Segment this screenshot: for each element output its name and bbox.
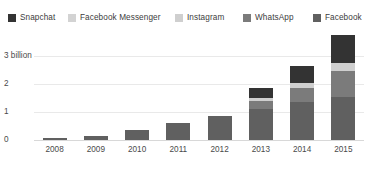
x-axis-tick-label: 2013	[240, 141, 281, 159]
legend-item-facebook[interactable]: Facebook	[313, 14, 362, 22]
x-axis-tick-label: 2009	[75, 141, 116, 159]
legend-swatch-icon	[313, 14, 321, 22]
x-axis-tick-label: 2011	[158, 141, 199, 159]
bar-segment-snapchat[interactable]	[331, 35, 355, 63]
bar-group-2008[interactable]	[34, 34, 75, 140]
bar-segment-facebook[interactable]	[249, 109, 273, 140]
legend-swatch-icon	[243, 14, 251, 22]
bar-segment-whatsapp[interactable]	[290, 88, 314, 102]
x-axis-tick-label: 2014	[282, 141, 323, 159]
stacked-bar[interactable]	[208, 116, 232, 140]
bar-segment-facebook[interactable]	[208, 116, 232, 140]
y-axis-tick-label: 1	[4, 108, 9, 116]
bar-segment-whatsapp[interactable]	[249, 101, 273, 109]
legend-item-instagram[interactable]: Instagram	[175, 14, 224, 22]
legend-swatch-icon	[68, 14, 76, 22]
stacked-bar[interactable]	[125, 130, 149, 140]
chart-legend: SnapchatFacebook MessengerInstagramWhats…	[0, 0, 368, 34]
bar-group-2011[interactable]	[158, 34, 199, 140]
legend-swatch-icon	[8, 14, 16, 22]
legend-item-snapchat[interactable]: Snapchat	[8, 14, 55, 22]
stacked-bar[interactable]	[249, 88, 273, 140]
x-axis: 20082009201020112012201320142015	[34, 141, 364, 159]
x-axis-tick-label: 2008	[34, 141, 75, 159]
x-axis-tick-label: 2015	[323, 141, 364, 159]
bar-segment-instagram[interactable]	[331, 63, 355, 71]
legend-label: Instagram	[187, 14, 224, 22]
y-axis-tick-label: 3 billion	[4, 52, 32, 60]
stacked-bar[interactable]	[166, 123, 190, 140]
bar-group-2010[interactable]	[117, 34, 158, 140]
legend-label: Facebook Messenger	[80, 14, 161, 22]
legend-label: Facebook	[325, 14, 362, 22]
bar-segment-facebook[interactable]	[166, 123, 190, 140]
bar-segment-whatsapp[interactable]	[331, 71, 355, 96]
bar-group-2012[interactable]	[199, 34, 240, 140]
stacked-bar[interactable]	[331, 35, 355, 140]
stacked-bar[interactable]	[43, 138, 67, 140]
bar-segment-snapchat[interactable]	[249, 88, 273, 98]
stacked-bar-chart: SnapchatFacebook MessengerInstagramWhats…	[0, 0, 368, 177]
stacked-bar[interactable]	[84, 136, 108, 140]
chart-footnote	[4, 170, 364, 177]
bar-group-2013[interactable]	[240, 34, 281, 140]
bar-segment-facebook[interactable]	[290, 102, 314, 140]
bar-segment-facebook[interactable]	[84, 136, 108, 140]
x-axis-tick-label: 2010	[117, 141, 158, 159]
legend-label: WhatsApp	[255, 14, 294, 22]
bar-group-2014[interactable]	[282, 34, 323, 140]
legend-label: Snapchat	[20, 14, 55, 22]
bar-segment-facebook[interactable]	[43, 138, 67, 140]
bar-group-2009[interactable]	[75, 34, 116, 140]
legend-swatch-icon	[175, 14, 183, 22]
y-axis-tick-label: 2	[4, 80, 9, 88]
stacked-bar[interactable]	[290, 66, 314, 140]
legend-item-facebook-messenger[interactable]: Facebook Messenger	[68, 14, 161, 22]
x-axis-tick-label: 2012	[199, 141, 240, 159]
bar-segment-facebook[interactable]	[125, 130, 149, 140]
plot-area: 0123 billion 200820092010201120122013201…	[0, 34, 368, 159]
legend-item-whatsapp[interactable]: WhatsApp	[243, 14, 294, 22]
bar-series-container	[34, 34, 364, 140]
bar-segment-facebook[interactable]	[331, 97, 355, 140]
bar-group-2015[interactable]	[323, 34, 364, 140]
y-axis-tick-label: 0	[4, 136, 9, 144]
bar-segment-snapchat[interactable]	[290, 66, 314, 83]
